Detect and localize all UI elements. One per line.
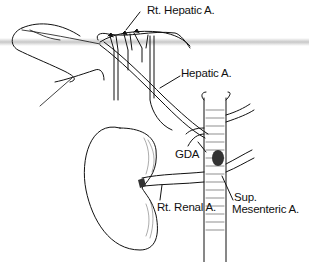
diagram-canvas: Rt. Hepatic A. Hepatic A. GDA Rt. Renal … bbox=[0, 0, 309, 262]
label-rt-hepatic-artery: Rt. Hepatic A. bbox=[147, 4, 215, 16]
rt-hepatic-branch-3 bbox=[134, 33, 142, 62]
sup-mesenteric-leader bbox=[222, 176, 233, 200]
rt-hepatic-leader bbox=[126, 12, 140, 30]
kidney bbox=[84, 127, 157, 250]
rt-renal-leader bbox=[160, 185, 162, 200]
rt-hepatic-branch-2 bbox=[124, 34, 128, 70]
label-sup-mesenteric-line2: Mesenteric A. bbox=[232, 203, 299, 215]
rt-hepatic-branch-1 bbox=[110, 36, 114, 100]
sup-mesenteric-artery bbox=[226, 150, 254, 172]
label-rt-renal-artery: Rt. Renal A. bbox=[157, 201, 216, 213]
hepatic-artery bbox=[100, 45, 205, 138]
label-sup-mesenteric-line1: Sup. bbox=[234, 191, 257, 203]
label-gda: GDA bbox=[175, 148, 199, 160]
anatomy-drawing bbox=[0, 0, 309, 262]
hepatic-leader bbox=[160, 76, 180, 88]
label-hepatic-artery: Hepatic A. bbox=[181, 67, 231, 79]
